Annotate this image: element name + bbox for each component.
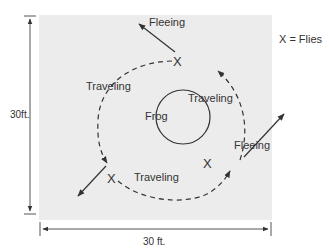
frog-label: Frog (145, 111, 168, 122)
width-label: 30 ft. (143, 237, 165, 247)
legend: X = Flies (279, 34, 322, 45)
height-label: 30ft. (10, 110, 29, 120)
travel-label-right: Traveling (188, 93, 233, 104)
travel-label-left: Traveling (86, 81, 131, 92)
travel-label-bottom: Traveling (134, 172, 179, 183)
fly-marker-left: X (107, 172, 116, 185)
flee-label-right: Fleeing (234, 140, 270, 151)
fly-marker-top: X (173, 55, 182, 68)
fly-marker-right: X (203, 157, 212, 170)
flee-label-top: Fleeing (149, 17, 185, 28)
